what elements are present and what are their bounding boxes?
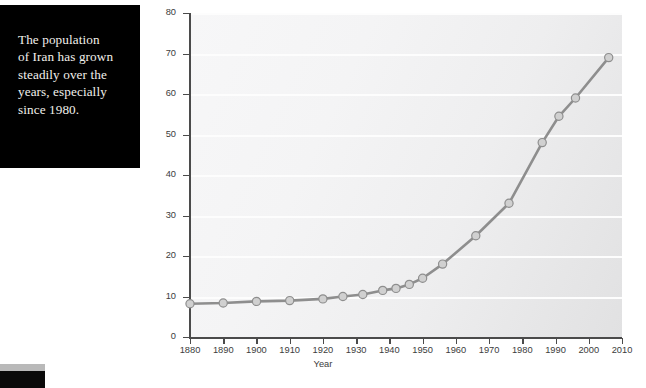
data-point-marker[interactable] [555,112,563,120]
data-point-marker[interactable] [252,297,260,305]
y-tick [183,337,189,338]
y-tick-label: 10 [150,291,176,301]
x-tick [622,338,623,344]
x-tick [389,338,390,344]
data-point-marker[interactable] [505,199,513,207]
y-tick [183,216,189,217]
data-point-marker[interactable] [379,286,387,294]
population-line-chart: Millions Year 01020304050607080188018901… [0,0,646,388]
y-tick [183,175,189,176]
data-point-marker[interactable] [605,54,613,62]
data-point-marker[interactable] [571,94,579,102]
data-point-marker[interactable] [319,295,327,303]
y-tick-label: 0 [150,331,176,341]
x-tick [256,338,257,344]
y-tick [183,256,189,257]
y-tick [183,54,189,55]
y-tick [183,297,189,298]
x-tick [589,338,590,344]
data-point-marker[interactable] [472,232,480,240]
y-tick-label: 60 [150,88,176,98]
series-layer [0,0,646,388]
y-tick-label: 50 [150,129,176,139]
data-point-marker[interactable] [392,284,400,292]
y-tick-label: 80 [150,7,176,17]
x-tick [223,338,224,344]
x-tick [356,338,357,344]
y-tick-label: 40 [150,169,176,179]
data-point-marker[interactable] [405,280,413,288]
x-tick [290,338,291,344]
data-point-marker[interactable] [219,299,227,307]
data-point-marker[interactable] [286,297,294,305]
x-tick [423,338,424,344]
x-tick [190,338,191,344]
x-tick [323,338,324,344]
data-point-marker[interactable] [339,292,347,300]
y-tick [183,94,189,95]
x-tick [489,338,490,344]
data-point-marker[interactable] [186,300,194,308]
data-point-marker[interactable] [439,260,447,268]
x-tick [522,338,523,344]
y-tick-label: 70 [150,48,176,58]
y-tick-label: 20 [150,250,176,260]
x-tick-label: 2010 [602,345,642,355]
series-line [190,58,609,304]
y-tick [183,13,189,14]
x-tick [556,338,557,344]
data-point-marker[interactable] [419,274,427,282]
y-tick [183,135,189,136]
x-tick [456,338,457,344]
data-point-marker[interactable] [359,290,367,298]
data-point-marker[interactable] [538,139,546,147]
y-tick-label: 30 [150,210,176,220]
